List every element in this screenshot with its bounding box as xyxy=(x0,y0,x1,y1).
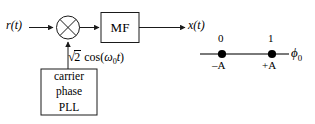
phi-symbol: ϕ xyxy=(291,45,298,60)
constellation-amplitude-label-1: +A xyxy=(262,60,276,71)
pll-block-text: carrier phase PLL xyxy=(41,69,97,115)
pll-line-2: phase xyxy=(56,84,82,99)
constellation-bit-label-1: 1 xyxy=(268,33,274,44)
cos-open: cos( xyxy=(84,50,104,64)
input-signal-label: r(t) xyxy=(6,19,22,31)
local-oscillator-expression: √2 cos(ω0t) xyxy=(68,50,124,67)
omega-symbol: ω xyxy=(104,50,112,64)
output-signal-label: x(t) xyxy=(188,19,205,31)
sqrt-radicand: 2 xyxy=(74,50,81,63)
constellation-point-0 xyxy=(218,50,226,58)
constellation-amplitude-label-0: –A xyxy=(212,60,225,71)
constellation-bit-label-0: 0 xyxy=(218,33,224,44)
constellation-axis-label: ϕ0 xyxy=(291,46,302,62)
pll-line-3: PLL xyxy=(59,100,79,115)
matched-filter-label: MF xyxy=(101,13,139,42)
figure-canvas: r(t) x(t) MF √2 cos(ω0t) carrier phase P… xyxy=(0,0,315,124)
cos-close: ) xyxy=(120,50,124,64)
constellation-point-1 xyxy=(268,50,276,58)
pll-line-1: carrier xyxy=(54,69,84,84)
phi-subscript: 0 xyxy=(298,53,302,63)
